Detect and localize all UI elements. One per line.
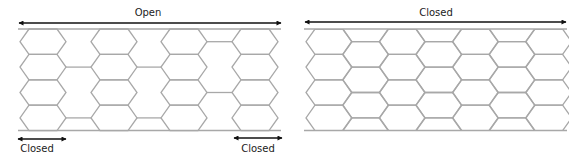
hexagon-cell [20,80,66,105]
open-mesh-panel [18,29,281,131]
hexagon-cell [232,105,278,130]
hexagon-cell [379,131,425,156]
hexagon-cell [416,143,462,158]
hexagon-cell [91,54,137,79]
hexagon-cell [161,80,207,105]
hexagon-cell [91,29,137,54]
hexagon-cell [232,80,278,105]
hexagon-cell [20,105,66,130]
hexagon-cell [526,105,572,130]
hexagon-cell [161,54,207,79]
hexagon-cell [306,131,352,156]
hexagon-cell [526,131,572,156]
hexagon-cell [343,143,389,158]
hexagon-cell [91,105,137,130]
hexagon-cell [20,29,66,54]
closed-mesh-panel [304,4,572,158]
hexagon-cell [161,105,207,130]
hexagon-cell [452,131,498,156]
closed-right-label: Closed [241,144,275,154]
hexagon-cell [452,4,498,29]
hexagon-cell [161,29,207,54]
hexagon-cell [526,4,572,29]
closed-mesh-cells [306,4,572,158]
mesh-diagram [0,0,581,158]
closed-top-label: Closed [419,8,453,18]
open-label: Open [135,8,162,18]
hexagon-cell [91,80,137,105]
hexagon-cell [526,54,572,79]
closed-left-label: Closed [20,144,54,154]
hexagon-cell [232,29,278,54]
hexagon-cell [20,54,66,79]
hexagon-cell [489,143,535,158]
hexagon-cell [526,29,572,54]
hexagon-cell [232,54,278,79]
hexagon-cell [306,4,352,29]
hexagon-cell [526,80,572,105]
